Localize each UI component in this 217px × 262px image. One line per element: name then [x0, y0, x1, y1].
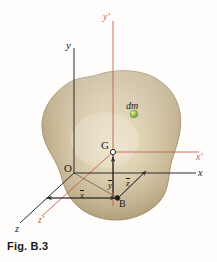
centroid-marker	[110, 149, 115, 154]
z-axis-label: z	[15, 224, 19, 234]
x-axis-label: x	[198, 168, 202, 178]
point-b-label: B	[119, 199, 126, 209]
mass-element-highlight	[131, 111, 133, 113]
y-axis-label: y	[66, 40, 71, 51]
mass-element-label: dm	[126, 101, 138, 111]
figure-diagram	[0, 0, 217, 232]
figure-caption: Fig. B.3	[7, 240, 48, 252]
origin-label: O	[64, 163, 72, 174]
centroid-label: G	[101, 140, 109, 151]
x-bar-label: x	[80, 190, 84, 200]
mass-element-marker	[130, 110, 138, 118]
z-bar-label: z	[126, 178, 130, 188]
x-prime-axis-label: x'	[196, 152, 203, 162]
z-prime-axis-label: z'	[38, 215, 44, 225]
y-prime-axis-label: y'	[103, 12, 110, 22]
figure-b3: y y' x x' z z' O G B dm x y z Fig. B.3	[0, 0, 217, 262]
y-bar-label: y	[108, 180, 112, 190]
